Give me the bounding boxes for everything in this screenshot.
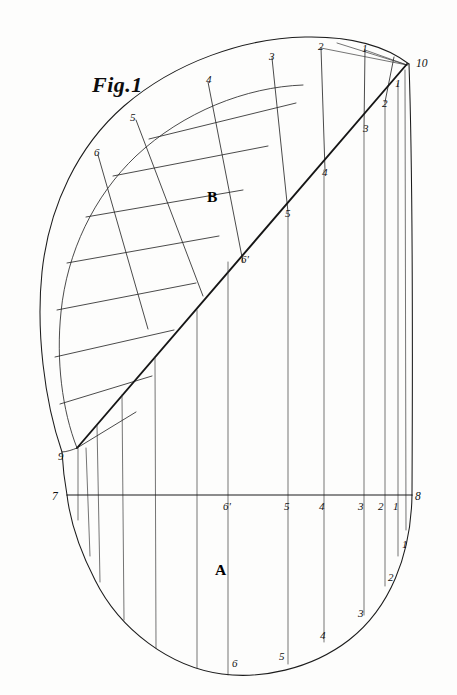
chord-endpoint-label-10: 10 [416, 57, 428, 69]
hatch-line [60, 376, 152, 404]
hatch-line [67, 236, 219, 263]
baseline-label-1: 1 [393, 500, 399, 512]
hatch-line [113, 146, 268, 176]
division-line-5 [136, 120, 203, 296]
lower-arc-label-5: 5 [279, 650, 285, 662]
hatch-line [77, 412, 136, 448]
lower-arc-label-2: 2 [388, 571, 394, 583]
chord-label-3: 3 [362, 122, 369, 134]
lower-arc-label-4: 4 [320, 629, 326, 641]
division-line-3 [272, 58, 288, 212]
hatch-line [57, 283, 196, 310]
chord-label-1: 1 [395, 77, 401, 89]
division-line-2 [321, 48, 325, 170]
baseline-label-7: 7 [52, 490, 59, 502]
hatch-line [149, 103, 296, 139]
ordinate-line [97, 425, 100, 582]
lower-arc-label-3: 3 [357, 607, 364, 619]
figure-canvas: Fig.1 B A 6 5 4 3 2 1 10 9 6' 5 4 3 2 1 … [0, 0, 457, 695]
vertical-ordinates-group [78, 70, 406, 675]
outer-outline-group [40, 37, 412, 675]
chord-label-2: 2 [382, 97, 388, 109]
baseline-label-6p: 6' [223, 500, 232, 512]
baseline-label-3: 3 [357, 500, 364, 512]
lune-inner-arc [59, 85, 303, 448]
division-line-1 [364, 50, 365, 128]
baseline-label-2: 2 [378, 500, 384, 512]
lune-inner-arc-group [59, 85, 303, 452]
chord-label-6p: 6' [241, 253, 250, 265]
arc-label-5: 5 [130, 111, 136, 123]
lower-arc-label-6: 6 [232, 657, 238, 669]
lower-outer-arc [67, 495, 412, 675]
ordinate-line [155, 357, 156, 648]
region-label-b: B [207, 188, 217, 205]
figure-title: Fig.1 [91, 72, 143, 97]
arc-label-3: 3 [268, 50, 275, 62]
chord-endpoint-label-9: 9 [58, 450, 64, 462]
lune-tip-arc [62, 448, 77, 452]
baseline-label-8: 8 [415, 490, 421, 502]
ordinate-line [405, 70, 406, 530]
arc-label-6: 6 [94, 146, 100, 158]
upper-outer-arc [40, 37, 409, 452]
arc-label-1: 1 [362, 42, 368, 54]
chord-label-5: 5 [285, 207, 291, 219]
baseline-label-4: 4 [319, 500, 325, 512]
division-line-4 [208, 82, 243, 262]
oblique-division-lines [55, 43, 407, 448]
lower-arc-label-1: 1 [402, 538, 408, 550]
division-line-6 [98, 155, 148, 329]
figure-drawing: Fig.1 B A 6 5 4 3 2 1 10 9 6' 5 4 3 2 1 … [0, 0, 457, 695]
arc-label-4: 4 [206, 73, 212, 85]
ordinate-line [86, 448, 90, 556]
chord-label-4: 4 [322, 166, 328, 178]
baseline-label-5: 5 [284, 500, 290, 512]
right-outer-edge [409, 64, 412, 495]
arc-label-2: 2 [318, 40, 324, 52]
fan-line-b [337, 43, 407, 65]
hatch-line [55, 330, 174, 357]
region-label-a: A [215, 561, 227, 578]
ordinate-line [122, 395, 124, 620]
